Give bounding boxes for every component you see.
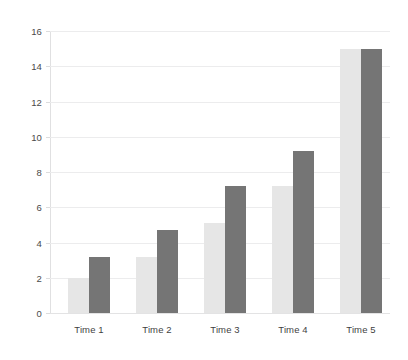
bar-series-2-time-2[interactable]: [157, 230, 178, 313]
y-axis-label-8: 8: [37, 167, 42, 178]
bar-series-1-time-4[interactable]: [272, 186, 293, 313]
x-axis-label-time-4: Time 4: [278, 324, 307, 335]
bar-series-1-time-3[interactable]: [204, 223, 225, 313]
y-axis-label-14: 14: [31, 61, 42, 72]
x-axis-label-time-2: Time 2: [142, 324, 171, 335]
y-axis-label-0: 0: [37, 308, 42, 319]
x-axis-label-time-1: Time 1: [74, 324, 103, 335]
bar-series-2-time-3[interactable]: [225, 186, 246, 313]
bar-group-time-4: [272, 31, 314, 313]
y-axis-label-10: 10: [31, 131, 42, 142]
bar-groups: [50, 31, 390, 313]
bar-series-1-time-1[interactable]: [68, 278, 89, 313]
x-axis-label-time-5: Time 5: [346, 324, 375, 335]
bar-group-time-1: [68, 31, 110, 313]
bar-group-time-5: [340, 31, 382, 313]
y-axis-label-16: 16: [31, 26, 42, 37]
bar-chart: 16 14 12 10 8 6 4 2 0: [0, 0, 408, 360]
bar-series-2-time-1[interactable]: [89, 257, 110, 313]
y-axis-label-4: 4: [37, 237, 42, 248]
y-axis-label-12: 12: [31, 96, 42, 107]
bar-series-2-time-4[interactable]: [293, 151, 314, 313]
gridline-0: [50, 313, 390, 314]
bar-series-2-time-5[interactable]: [361, 49, 382, 313]
bar-series-1-time-2[interactable]: [136, 257, 157, 313]
y-axis-label-2: 2: [37, 272, 42, 283]
plot-area: [50, 31, 390, 313]
bar-series-1-time-5[interactable]: [340, 49, 361, 313]
bar-group-time-2: [136, 31, 178, 313]
bar-group-time-3: [204, 31, 246, 313]
y-axis-label-6: 6: [37, 202, 42, 213]
x-axis-label-time-3: Time 3: [210, 324, 239, 335]
